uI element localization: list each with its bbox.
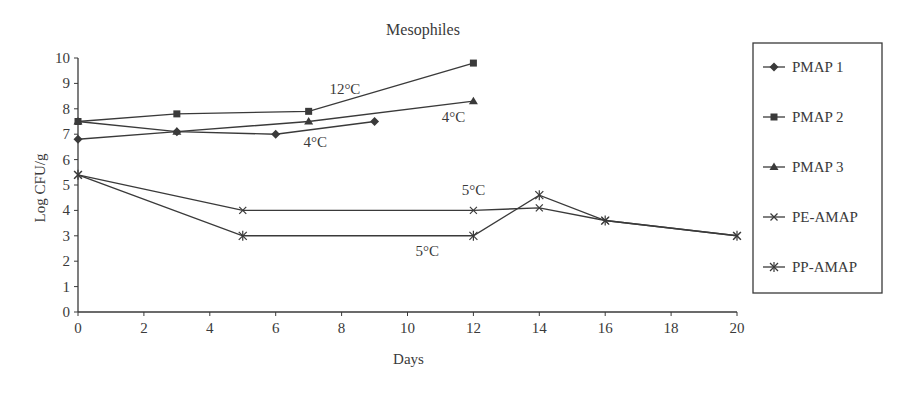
square-marker-icon: [771, 114, 778, 121]
y-tick-label: 9: [63, 75, 71, 91]
temperature-annotation: 5°C: [462, 182, 486, 198]
y-tick-label: 5: [63, 177, 71, 193]
y-tick-label: 6: [63, 152, 71, 168]
legend-label: PMAP 3: [792, 159, 844, 175]
triangle-marker-icon: [469, 97, 478, 105]
y-tick-label: 4: [63, 202, 71, 218]
legend-label: PMAP 2: [792, 109, 844, 125]
legend-label: PP-AMAP: [792, 259, 857, 275]
y-tick-label: 2: [63, 253, 71, 269]
x-tick-label: 6: [272, 320, 280, 336]
y-tick-label: 3: [63, 228, 71, 244]
x-axis-label: Days: [393, 351, 424, 367]
square-marker-icon: [305, 108, 312, 115]
series-pe-amap: [75, 171, 741, 239]
legend-label: PMAP 1: [792, 59, 844, 75]
series-pmap-1: [74, 117, 380, 144]
series-line: [78, 175, 737, 236]
axes: 01234567891002468101214161820: [55, 50, 745, 336]
x-tick-label: 14: [532, 320, 548, 336]
y-tick-label: 1: [63, 279, 71, 295]
temperature-annotation: 4°C: [303, 134, 327, 150]
x-tick-label: 20: [730, 320, 745, 336]
x-tick-label: 0: [74, 320, 82, 336]
y-tick-label: 0: [63, 304, 71, 320]
y-axis-label: Log CFU/g: [32, 153, 48, 222]
diamond-marker-icon: [370, 117, 379, 126]
x-tick-label: 16: [598, 320, 614, 336]
y-tick-label: 8: [63, 101, 71, 117]
chart: Mesophiles 01234567891002468101214161820…: [0, 0, 908, 393]
x-tick-label: 12: [466, 320, 481, 336]
x-tick-label: 10: [400, 320, 415, 336]
temperature-annotation: 4°C: [442, 109, 466, 125]
legend: PMAP 1PMAP 2PMAP 3PE-AMAPPP-AMAP: [753, 43, 882, 293]
square-marker-icon: [470, 60, 477, 67]
temperature-annotation: 12°C: [329, 81, 360, 97]
series-line: [78, 122, 375, 140]
diamond-marker-icon: [271, 130, 280, 139]
series-pmap-2: [75, 60, 477, 125]
x-tick-label: 18: [664, 320, 679, 336]
diamond-marker-icon: [74, 135, 83, 144]
square-marker-icon: [173, 110, 180, 117]
annotations: 12°C4°C4°C5°C5°C: [303, 81, 485, 260]
plot-series: [74, 60, 742, 241]
x-tick-label: 2: [140, 320, 148, 336]
temperature-annotation: 5°C: [416, 243, 440, 259]
star-marker-icon: [535, 190, 543, 200]
legend-label: PE-AMAP: [792, 209, 858, 225]
series-pmap-3: [74, 97, 478, 135]
y-tick-label: 10: [55, 50, 70, 66]
series-pp-amap: [74, 170, 741, 241]
chart-title: Mesophiles: [386, 21, 460, 39]
y-tick-label: 7: [63, 126, 71, 142]
x-tick-label: 4: [206, 320, 214, 336]
series-line: [78, 175, 737, 236]
x-tick-label: 8: [338, 320, 346, 336]
series-line: [78, 63, 473, 121]
